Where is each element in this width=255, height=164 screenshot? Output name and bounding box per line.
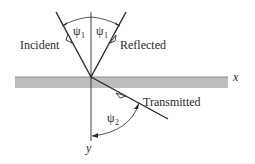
psi2-arrowhead-top-icon: [134, 103, 139, 109]
incident-ray: [56, 12, 91, 77]
diagram-canvas: Incident Reflected Transmitted x y ψ 1 ψ…: [0, 0, 255, 164]
psi2-symbol: ψ: [107, 111, 115, 125]
psi1-right-symbol: ψ: [96, 24, 104, 38]
psi1-right-subscript: 1: [104, 31, 108, 40]
incident-label: Incident: [20, 38, 60, 52]
interface-band: [15, 77, 228, 88]
y-axis-label: y: [85, 141, 92, 155]
x-axis-label: x: [232, 70, 239, 84]
transmitted-label: Transmitted: [143, 95, 201, 109]
reflection-diagram: Incident Reflected Transmitted x y ψ 1 ψ…: [0, 0, 255, 164]
incident-arrow-icon: [66, 34, 72, 43]
psi2-subscript: 2: [115, 118, 119, 127]
psi1-left-symbol: ψ: [73, 24, 81, 38]
reflected-label: Reflected: [120, 38, 166, 52]
psi1-left-subscript: 1: [81, 31, 85, 40]
